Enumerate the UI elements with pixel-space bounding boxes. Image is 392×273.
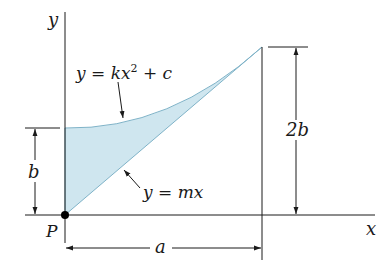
x-axis-label: x bbox=[366, 218, 376, 239]
origin-label: P bbox=[45, 221, 58, 241]
dim-a-label: a bbox=[155, 236, 166, 257]
point-p bbox=[61, 211, 69, 219]
area-diagram: y x P y = kx2 + c y = mx b 2b a bbox=[0, 0, 392, 273]
leader-lower-curve bbox=[124, 170, 140, 188]
leader-upper-curve bbox=[118, 82, 123, 118]
upper-curve-equation: y = kx2 + c bbox=[75, 62, 173, 83]
dim-2b-label: 2b bbox=[285, 119, 309, 140]
y-axis-label: y bbox=[47, 9, 59, 30]
lower-curve-equation: y = mx bbox=[142, 182, 204, 202]
dim-b-label: b bbox=[28, 161, 40, 182]
